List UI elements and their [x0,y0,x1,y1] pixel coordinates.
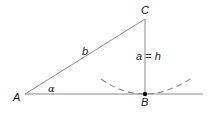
label-angle-alpha: α [48,83,55,94]
label-a-vertex: A [12,91,20,103]
label-side-b: b [82,45,88,57]
label-side-a-h: a = h [136,50,161,62]
label-c-vertex: C [141,4,149,16]
triangle-diagram: A B C b a = h α [0,0,212,116]
dashed-arc [101,77,193,94]
label-b-vertex: B [141,96,148,108]
